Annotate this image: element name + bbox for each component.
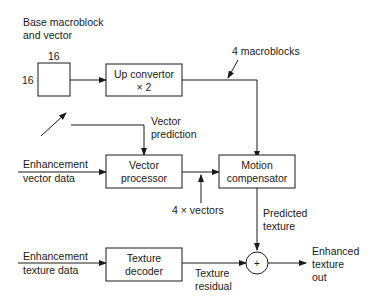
enhanced-texture-out-label: Enhanced [312, 245, 359, 257]
vector-processor-label: Vector [129, 159, 159, 171]
adder-node: + [246, 252, 268, 274]
enhanced-texture-out-label-2: texture [312, 258, 344, 270]
base-macroblock-label-2: and vector [23, 29, 73, 41]
texture-residual-label: Texture [195, 267, 230, 279]
vector-prediction-label-2: prediction [151, 128, 197, 140]
vector-processor-label-2: processor [121, 172, 168, 184]
texture-decoder-label-2: decoder [125, 265, 163, 277]
up-convertor-label: Up convertor [114, 68, 175, 80]
enh-texture-label-2: texture data [23, 264, 79, 276]
predicted-texture-label-2: texture [263, 220, 295, 232]
four-macroblocks-label: 4 macroblocks [232, 45, 300, 57]
codec-block-diagram: Base macroblock and vector 16 16 Up conv… [0, 0, 387, 307]
dimension-top-label: 16 [48, 50, 60, 62]
up-convertor-factor: × 2 [137, 81, 152, 93]
macroblock-square [38, 63, 70, 96]
plus-icon: + [254, 258, 260, 269]
enh-vector-label: Enhancement [23, 158, 88, 170]
predicted-texture-label: Predicted [263, 207, 308, 219]
vector-prediction-label: Vector [151, 115, 181, 127]
four-macroblocks-pointer [228, 60, 238, 78]
enh-texture-label: Enhancement [23, 250, 88, 262]
texture-residual-label-2: residual [195, 280, 232, 292]
enhanced-texture-out-label-3: out [312, 271, 327, 283]
base-macroblock-label: Base macroblock [23, 16, 104, 28]
arrow-upconvertor-to-motion [182, 80, 257, 158]
enh-vector-label-2: vector data [23, 172, 75, 184]
arrow-vector-prediction [71, 125, 144, 155]
motion-compensator-block: Motion compensator [219, 155, 295, 188]
dimension-left-label: 16 [22, 74, 34, 86]
texture-decoder-block: Texture decoder [106, 248, 182, 281]
four-vectors-label: 4 × vectors [172, 204, 224, 216]
motion-compensator-label-2: compensator [227, 172, 288, 184]
up-convertor-block: Up convertor × 2 [106, 64, 182, 96]
diagonal-vector-arrow [41, 113, 66, 136]
texture-decoder-label: Texture [127, 252, 162, 264]
motion-compensator-label: Motion [241, 159, 273, 171]
vector-processor-block: Vector processor [106, 155, 182, 188]
